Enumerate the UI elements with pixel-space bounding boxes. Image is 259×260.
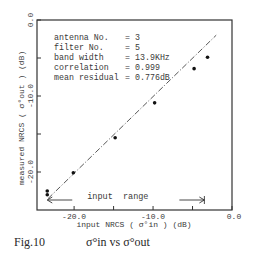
stat-label: filter No. (54, 43, 104, 52)
data-point (113, 136, 117, 140)
stat-label: band width (54, 53, 104, 62)
y-axis-label: measured NRCS ( σ°out ) (dB) (17, 51, 26, 185)
x-tick-label: 0.0 (227, 212, 242, 221)
stat-label: mean residual (54, 73, 119, 82)
y-ticks: 0.0-10.0-20.0 (26, 13, 41, 184)
input-range-annotation: input range (47, 192, 204, 204)
stat-value: 0.776dB (135, 73, 170, 82)
data-point (72, 171, 76, 175)
stat-equals: = (125, 53, 130, 62)
stat-equals: = (125, 63, 130, 72)
x-axis-label: input NRCS ( σ°in ) (dB) (76, 220, 191, 229)
y-tick-label: -10.0 (26, 84, 35, 108)
stat-value: 0.999 (135, 63, 160, 72)
data-point (153, 101, 157, 105)
chart: -20.0-10.00.0 0.0-10.0-20.0 antenna No.=… (0, 0, 259, 260)
data-point (45, 193, 49, 197)
stat-label: correlation (54, 63, 109, 72)
stats-box: antenna No.=3filter No.=5band width =13.… (54, 33, 170, 82)
stat-equals: = (125, 33, 130, 42)
data-point (192, 67, 196, 71)
figure-caption: σ°in vs σ°out (86, 235, 151, 249)
data-point (206, 55, 210, 59)
stat-equals: = (125, 73, 130, 82)
x-ticks: -20.0-10.00.0 (62, 206, 241, 221)
stat-value: 5 (135, 43, 140, 52)
stat-value: 13.9KHz (135, 53, 170, 62)
stat-equals: = (125, 43, 130, 52)
data-point (45, 189, 49, 193)
stat-value: 3 (135, 33, 140, 42)
y-tick-label: -20.0 (26, 160, 35, 184)
stat-label: antenna No. (54, 33, 109, 42)
input-range-label: input range (87, 192, 148, 202)
figure-label: Fig.10 (14, 235, 45, 249)
y-tick-label: 0.0 (26, 13, 35, 28)
